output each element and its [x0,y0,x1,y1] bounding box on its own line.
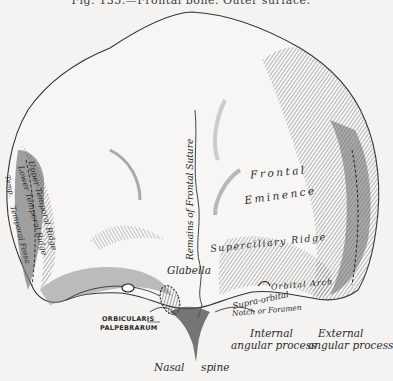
label-orbicularis: ORBICULARIS [102,316,155,323]
label-glabella: Glabella [167,265,211,276]
label-external-angular-process: angular process [308,340,393,351]
label-internal-angular-process: angular process [231,340,316,351]
label-nasal: Nasal [154,362,184,373]
label-spine: spine [201,362,229,373]
label-external: External [318,328,363,339]
label-palpebrarum: PALPEBRARUM [100,325,158,332]
label-internal: Internal [250,328,293,339]
label-remains-frontal-suture: Remains of Frontal Suture [186,139,195,260]
